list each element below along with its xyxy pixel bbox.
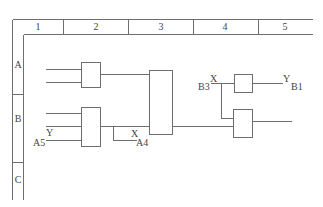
signal-label-x2: X [210,73,218,84]
signal-label-y: Y [46,127,53,138]
row-header-b: B [15,113,22,124]
logic-diagram: 1 2 3 4 5 A B C Y A5 X A4 B3 [0,0,323,207]
gate-main [150,71,234,135]
gate-b2 [46,108,150,147]
gate-b4 [234,110,293,138]
column-header-4: 4 [223,21,228,32]
row-header-a: A [14,59,22,70]
ref-label-a5: A5 [33,137,45,148]
gate-a2 [46,63,150,88]
column-header-5: 5 [283,21,288,32]
row-header-c: C [15,174,22,185]
ref-label-a4: A4 [136,137,148,148]
column-header-1: 1 [36,21,41,32]
ref-label-b1: B1 [291,81,303,92]
column-header-3: 3 [159,21,164,32]
ref-label-b3: B3 [198,81,210,92]
signal-label-y2: Y [283,73,290,84]
column-header-2: 2 [94,21,99,32]
